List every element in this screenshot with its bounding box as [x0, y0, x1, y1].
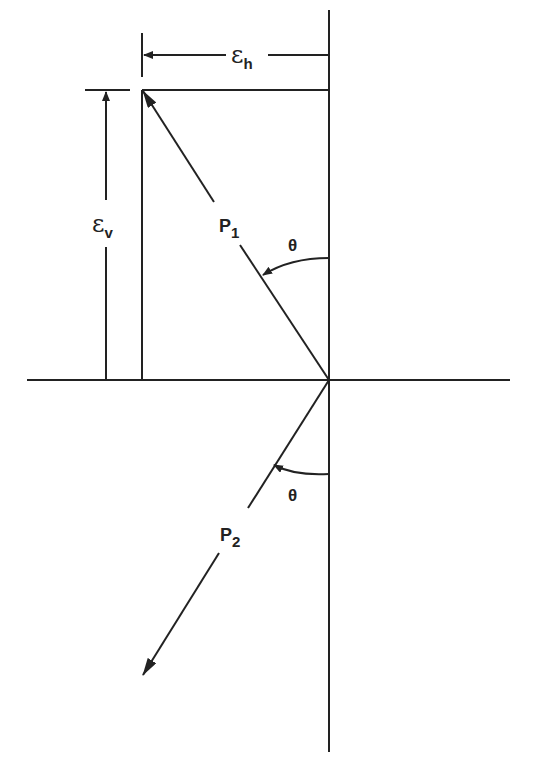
eps-v-label: εv — [92, 210, 113, 241]
theta-upper-label: θ — [288, 236, 297, 255]
p2-label: P2 — [220, 525, 240, 550]
p1-label: P1 — [219, 216, 239, 241]
theta-lower-label: θ — [288, 486, 297, 505]
vector-p1-upper — [143, 91, 214, 202]
vector-diagram: εh εv P1 θ P2 θ — [0, 0, 543, 763]
angle-theta-lower-arc — [274, 465, 329, 474]
vector-p2-lower — [143, 553, 219, 675]
angle-theta-upper-arc — [263, 258, 329, 275]
eps-h-label: εh — [231, 41, 253, 72]
